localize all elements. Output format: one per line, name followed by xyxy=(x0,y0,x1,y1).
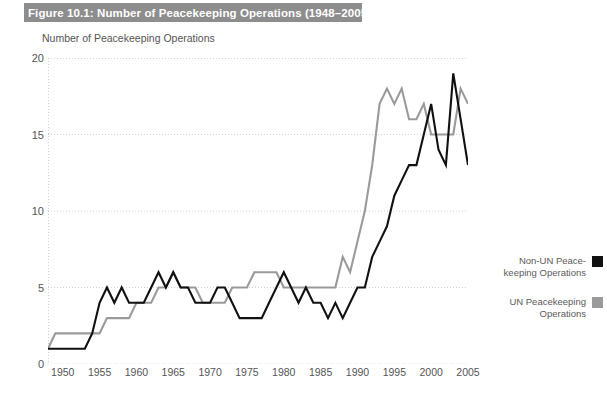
legend-item-label: UN Peacekeeping Operations xyxy=(500,296,586,319)
y-axis-caption: Number of Peacekeeping Operations xyxy=(42,32,215,44)
y-axis-tick-label: 5 xyxy=(38,282,44,294)
x-axis-tick-label: 1955 xyxy=(88,366,111,378)
series-line-un xyxy=(48,89,468,349)
legend-item: Non-UN Peace-keeping Operations xyxy=(478,255,603,278)
x-axis-tick-label: 1995 xyxy=(383,366,406,378)
legend-item-label: Non-UN Peace-keeping Operations xyxy=(500,255,586,278)
x-axis-tick-label: 1965 xyxy=(162,366,185,378)
figure-title: Figure 10.1: Number of Peacekeeping Oper… xyxy=(24,7,371,19)
x-axis-tick-label: 1980 xyxy=(272,366,295,378)
x-axis-tick-label: 1985 xyxy=(309,366,332,378)
y-axis-tick-labels: 05101520 xyxy=(14,58,44,364)
y-axis-tick-label: 0 xyxy=(38,358,44,370)
legend-swatch-non-un xyxy=(592,256,603,267)
x-axis-tick-label: 1960 xyxy=(125,366,148,378)
x-axis-tick-label: 1970 xyxy=(198,366,221,378)
x-axis-tick-label: 2005 xyxy=(456,366,479,378)
legend-item: UN Peacekeeping Operations xyxy=(478,296,603,319)
figure-root: Figure 10.1: Number of Peacekeeping Oper… xyxy=(0,0,607,404)
figure-title-band: Figure 10.1: Number of Peacekeeping Oper… xyxy=(24,3,362,22)
y-axis-tick-label: 10 xyxy=(32,205,44,217)
y-axis-tick-label: 15 xyxy=(32,129,44,141)
y-axis-tick-label: 20 xyxy=(32,52,44,64)
legend-swatch-un xyxy=(592,297,603,308)
x-axis-tick-label: 2000 xyxy=(419,366,442,378)
x-axis-tick-label: 1975 xyxy=(235,366,258,378)
x-axis-tick-labels: 1950195519601965197019751980198519901995… xyxy=(48,366,468,384)
chart-legend: Non-UN Peace-keeping OperationsUN Peacek… xyxy=(478,255,603,337)
x-axis-tick-label: 1990 xyxy=(346,366,369,378)
x-axis-tick-label: 1950 xyxy=(51,366,74,378)
chart-plot-area xyxy=(48,58,468,364)
